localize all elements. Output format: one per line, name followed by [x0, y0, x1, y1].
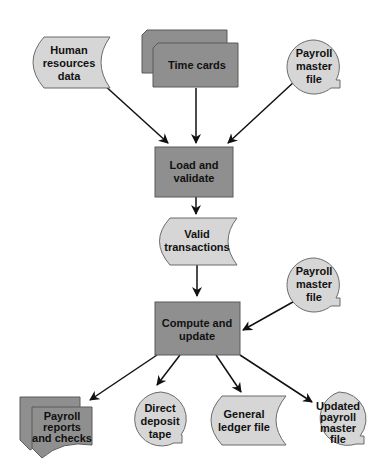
- edge-compute-to-deposit: [157, 355, 180, 385]
- node-label: Compute and: [162, 317, 232, 329]
- node-label: file: [330, 433, 346, 445]
- node-label: Load and: [170, 159, 219, 171]
- node-label: master: [296, 60, 333, 72]
- node-label: Payroll: [296, 265, 333, 277]
- node-label: and checks: [32, 432, 92, 444]
- edge-master2-to-compute: [243, 298, 300, 330]
- node-human-resources-data: Human resources data: [33, 37, 110, 88]
- node-label: file: [306, 291, 322, 303]
- edge-compute-to-reports: [90, 355, 157, 400]
- node-compute-and-update: Compute and update: [155, 302, 240, 355]
- node-label: Time cards: [168, 59, 226, 71]
- node-payroll-reports-and-checks: Payroll reports and checks: [20, 397, 92, 458]
- node-label: Valid: [184, 228, 210, 240]
- node-label: tape: [149, 428, 172, 440]
- node-label: General: [224, 408, 265, 420]
- node-label: file: [306, 73, 322, 85]
- node-label: validate: [174, 172, 215, 184]
- edge-compute-to-updated: [240, 355, 312, 402]
- node-label: transactions: [164, 241, 229, 253]
- node-label: Direct: [144, 402, 176, 414]
- node-valid-transactions: Valid transactions: [160, 218, 238, 265]
- edge-hr-to-load: [103, 84, 168, 143]
- node-payroll-master-file-2: Payroll master file: [287, 258, 340, 312]
- node-label: deposit: [140, 415, 179, 427]
- node-label: Human: [50, 44, 88, 56]
- payroll-flowchart: Human resources data Time cards Payroll …: [0, 0, 382, 475]
- node-label: master: [296, 278, 333, 290]
- node-label: resources: [43, 57, 96, 69]
- edge-master-to-load: [228, 81, 295, 143]
- node-direct-deposit-tape: Direct deposit tape: [135, 392, 187, 446]
- node-label: update: [179, 330, 215, 342]
- node-time-cards: Time cards: [142, 30, 238, 87]
- node-updated-payroll-master-file: Updated payroll master file: [316, 392, 366, 445]
- edge-compute-to-ledger: [216, 355, 241, 392]
- node-load-and-validate: Load and validate: [155, 147, 233, 197]
- node-label: Payroll: [296, 47, 333, 59]
- node-label: ledger file: [218, 421, 270, 433]
- node-general-ledger-file: General ledger file: [211, 396, 286, 445]
- node-payroll-master-file: Payroll master file: [287, 40, 340, 94]
- node-label: data: [58, 70, 82, 82]
